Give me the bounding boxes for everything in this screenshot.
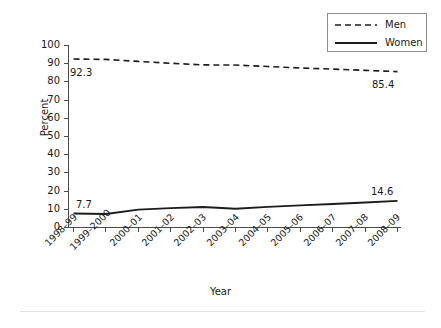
chart-legend: Men Women <box>327 13 427 52</box>
y-tick-label: 10 <box>36 204 60 214</box>
y-axis-title: Percent <box>39 88 50 148</box>
footer-divider <box>20 311 425 312</box>
data-label-women-first: 7.7 <box>76 199 92 210</box>
legend-label-women: Women <box>385 37 423 48</box>
y-tick-label: 100 <box>36 40 60 50</box>
chart-figure: 100 90 80 70 60 50 40 30 20 10 0 1998–99… <box>0 0 441 328</box>
data-label-women-last: 14.6 <box>371 186 393 197</box>
y-tick-label: 80 <box>36 76 60 86</box>
legend-swatch-dashed-line <box>335 20 377 30</box>
series-line-men <box>74 59 398 72</box>
series-line-women <box>74 201 398 214</box>
data-label-men-first: 92.3 <box>70 67 92 78</box>
y-tick-label: 40 <box>36 149 60 159</box>
legend-item-men[interactable]: Men <box>328 15 426 34</box>
y-tick-label: 20 <box>36 186 60 196</box>
data-label-men-last: 85.4 <box>372 79 394 90</box>
y-tick-label: 30 <box>36 167 60 177</box>
x-axis-title: Year <box>0 286 441 297</box>
legend-item-women[interactable]: Women <box>328 33 426 52</box>
y-tick-label: 90 <box>36 58 60 68</box>
legend-label-men: Men <box>385 19 406 30</box>
y-tick-marks <box>64 46 69 228</box>
legend-swatch-solid-line <box>335 38 377 48</box>
